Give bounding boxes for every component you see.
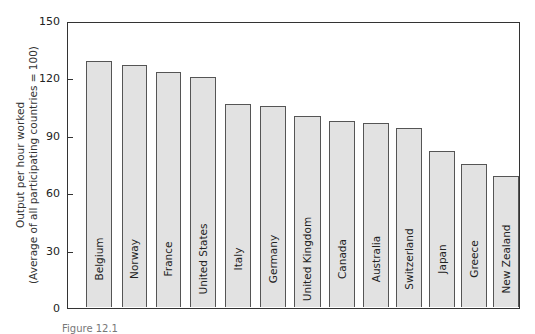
plot-area: BelgiumNorwayFranceUnited StatesItalyGer… xyxy=(67,22,520,309)
bar-australia: Australia xyxy=(363,123,389,307)
y-axis-title-line-1: Output per hour worked xyxy=(14,35,27,295)
bar-label: Canada xyxy=(336,240,348,280)
bar-label: France xyxy=(162,242,174,277)
bar-norway: Norway xyxy=(122,65,147,307)
y-tick-label: 90 xyxy=(30,130,60,143)
bar-label: Belgium xyxy=(93,238,105,281)
bar-belgium: Belgium xyxy=(86,61,112,307)
bar-label: Italy xyxy=(232,248,244,271)
bar-label: Greece xyxy=(468,241,480,278)
bar-canada: Canada xyxy=(329,121,355,307)
figure-caption: Figure 12.1 xyxy=(62,323,118,334)
bar-label: Norway xyxy=(128,240,140,280)
bar-label: Japan xyxy=(436,245,448,274)
bar-new-zealand: New Zealand xyxy=(493,176,519,307)
y-tick-label: 150 xyxy=(30,15,60,28)
bar-united-kingdom: United Kingdom xyxy=(294,116,321,307)
y-tick-label: 30 xyxy=(30,245,60,258)
bar-label: Switzerland xyxy=(403,229,415,290)
bar-label: United Kingdom xyxy=(301,217,313,301)
bar-label: Germany xyxy=(267,235,279,283)
bar-switzerland: Switzerland xyxy=(396,128,422,307)
bar-label: New Zealand xyxy=(500,225,512,294)
bar-label: Australia xyxy=(370,236,382,282)
bar-italy: Italy xyxy=(225,104,251,307)
y-tick-label: 120 xyxy=(30,72,60,85)
y-tick-label: 0 xyxy=(30,302,60,315)
y-tick-label: 60 xyxy=(30,187,60,200)
bar-greece: Greece xyxy=(461,164,487,307)
bar-label: United States xyxy=(197,224,209,295)
bar-japan: Japan xyxy=(429,151,455,307)
bar-germany: Germany xyxy=(260,106,286,307)
bar-france: France xyxy=(156,72,181,307)
bar-united-states: United States xyxy=(190,77,216,307)
